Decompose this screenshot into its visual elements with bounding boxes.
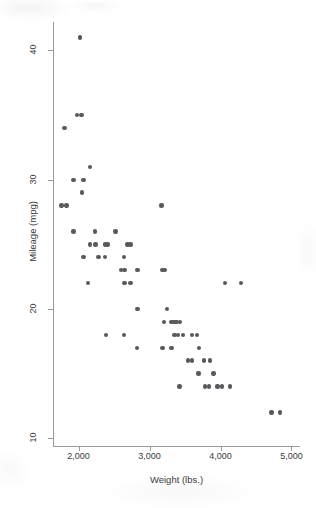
data-point (181, 333, 185, 337)
y-axis-title: Mileage (mpg) (27, 152, 38, 312)
x-tick-label: 3,000 (127, 452, 173, 461)
x-tick-label: 4,000 (198, 452, 244, 461)
data-point (135, 268, 139, 272)
data-point (93, 242, 97, 246)
data-point (80, 190, 84, 194)
data-point (207, 384, 211, 388)
data-point (159, 203, 163, 207)
y-axis-line (53, 22, 54, 446)
x-tick-label: 5,000 (268, 452, 314, 461)
data-point (269, 410, 273, 414)
data-point (160, 346, 164, 350)
data-point (105, 242, 109, 246)
x-axis-title: Weight (lbs.) (53, 474, 300, 485)
data-point (64, 203, 68, 207)
data-point (113, 229, 117, 233)
data-point (278, 410, 282, 414)
data-point (79, 113, 83, 117)
y-tick-mark (48, 438, 53, 439)
data-point (169, 346, 173, 350)
data-point (62, 126, 66, 130)
data-point (228, 384, 232, 388)
data-point (176, 333, 180, 337)
data-point (211, 371, 215, 375)
data-point (59, 203, 63, 207)
x-axis-line (53, 446, 300, 447)
data-point (162, 320, 166, 324)
y-tick-mark (48, 180, 53, 181)
plot-area (53, 22, 300, 446)
data-point (196, 371, 200, 375)
data-point (78, 35, 82, 39)
x-tick-label: 2,000 (56, 452, 102, 461)
data-point (208, 358, 212, 362)
data-point (128, 281, 132, 285)
data-point (71, 178, 75, 182)
data-point (81, 178, 85, 182)
y-tick-mark (48, 50, 53, 51)
y-tick-mark (48, 309, 53, 310)
data-point (177, 384, 181, 388)
data-point (135, 346, 139, 350)
data-point (88, 242, 92, 246)
y-tick-label: 10 (29, 427, 38, 449)
data-point (135, 307, 139, 311)
y-tick-label: 40 (29, 39, 38, 61)
scatter-plot-figure: 10203040 2,0003,0004,0005,000 Weight (lb… (0, 0, 316, 508)
data-point (128, 242, 132, 246)
data-point (93, 229, 97, 233)
data-point (71, 229, 75, 233)
data-point (220, 384, 224, 388)
data-point (88, 165, 92, 169)
